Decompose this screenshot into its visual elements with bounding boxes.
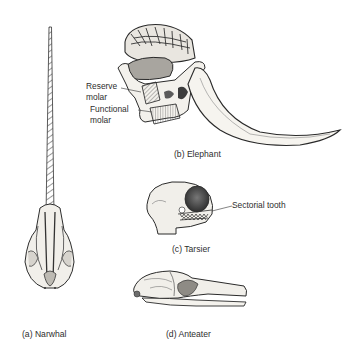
callout-reserve-molar: molar bbox=[86, 93, 107, 102]
callout-functional-molar: molar bbox=[90, 116, 111, 125]
tarsier-illustration bbox=[147, 182, 232, 234]
elephant-illustration bbox=[118, 25, 340, 146]
callout-functional: Functional bbox=[90, 105, 129, 114]
caption-narwhal: (a) Narwhal bbox=[22, 330, 66, 339]
callout-sectorial-tooth: Sectorial tooth bbox=[232, 201, 286, 210]
caption-tarsier: (c) Tarsier bbox=[172, 245, 210, 254]
teeth-specialization-figure: (a) Narwhal (b) Elephant (c) Tarsier (d)… bbox=[0, 0, 363, 363]
illustrations bbox=[0, 0, 363, 363]
anteater-illustration bbox=[134, 271, 247, 306]
callout-reserve: Reserve bbox=[86, 82, 117, 91]
narwhal-illustration bbox=[25, 27, 74, 289]
caption-elephant: (b) Elephant bbox=[174, 150, 221, 159]
caption-anteater: (d) Anteater bbox=[166, 330, 211, 339]
